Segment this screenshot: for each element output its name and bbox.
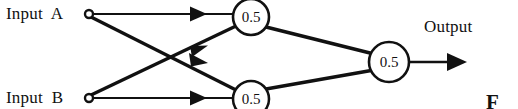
- output-node-value: 0.5: [380, 54, 399, 70]
- input-b-label: Input B: [6, 89, 63, 106]
- edge-output-arrow: [409, 53, 467, 71]
- input-a-label: Input A: [6, 5, 63, 22]
- edge-hidden-top-to-output: [266, 27, 374, 54]
- input-b-terminal-icon: [85, 94, 93, 102]
- hidden-node-top-value: 0.5: [242, 9, 261, 25]
- hidden-node-bottom: 0.5: [233, 81, 269, 109]
- edge-input-b-to-hidden-top: [91, 26, 236, 95]
- neural-network-figure: 0.5 0.5 0.5 Input A Input B Output F: [0, 0, 518, 109]
- edge-input-a-to-hidden-top: [92, 7, 234, 22]
- hidden-node-top: 0.5: [233, 0, 269, 35]
- edge-input-b-to-hidden-bottom: [92, 91, 234, 106]
- figure-caption-fragment: F: [486, 92, 499, 109]
- hidden-node-bottom-value: 0.5: [242, 91, 261, 107]
- edge-hidden-bottom-to-output: [266, 70, 374, 89]
- output-node: 0.5: [369, 42, 409, 82]
- input-a-terminal-icon: [85, 10, 93, 18]
- output-label: Output: [424, 18, 472, 35]
- edge-input-a-to-hidden-bottom: [91, 17, 236, 90]
